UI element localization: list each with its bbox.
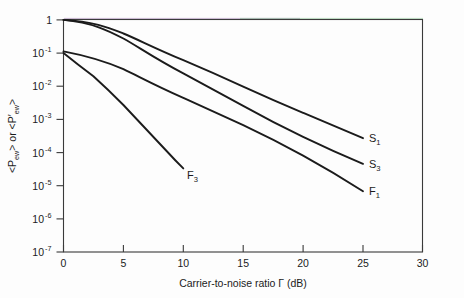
curve-label-F1-sub: 1 [376,191,380,200]
x-tick-label: 25 [357,257,369,269]
y-tick-label: 10 [32,113,44,125]
svg-text:S3: S3 [369,158,381,173]
y-axis-title: <Pew> or <P′ew> [6,99,21,173]
y-tick-label: 10 [32,213,44,225]
chart-figure: 0 5 10 15 20 25 30 1 10 -1 10 -2 10 -3 1… [0,0,464,298]
y-axis-ticks [57,20,64,252]
y-tick-labels: 1 10 -1 10 -2 10 -3 10 -4 10 -5 10 -6 10… [32,14,52,258]
y-tick-exponent: -3 [45,111,51,120]
curve-label-S3-sub: 3 [376,164,380,173]
x-axis-ticks [64,245,423,252]
y-tick-label: 10 [32,47,44,59]
semilog-plot-canvas: 0 5 10 15 20 25 30 1 10 -1 10 -2 10 -3 1… [0,0,464,298]
y-axis-title-part3: > [6,99,18,105]
curve-label-F1: F1 [369,185,380,200]
curve-label-S3-base: S [369,158,376,170]
curve-label-S3: S3 [369,158,381,173]
y-tick-exponent: -4 [45,145,51,154]
curve-label-F3-sub: 3 [194,175,198,184]
x-axis-title: Carrier-to-noise ratio Γ (dB) [179,277,307,289]
y-tick-exponent: -5 [45,178,51,187]
y-tick-exponent: -7 [45,244,51,253]
y-tick-exponent: -6 [45,211,51,220]
y-tick-exponent: -1 [45,45,51,54]
y-axis-title-part1: <P [6,160,18,173]
y-tick-label: 1 [46,14,52,26]
svg-text:<Pew> or <P′ew>: <Pew> or <P′ew> [6,99,21,173]
curve-label-S1: S1 [369,132,381,147]
x-tick-label: 5 [120,257,126,269]
x-tick-label: 0 [61,257,67,269]
x-tick-label: 20 [297,257,309,269]
y-tick-exponent: -2 [45,78,51,87]
svg-text:S1: S1 [369,132,381,147]
y-tick-label: 10 [32,80,44,92]
svg-text:F1: F1 [369,185,380,200]
svg-text:F3: F3 [187,169,198,184]
curve-label-S1-base: S [369,132,376,144]
y-tick-label: 10 [32,147,44,159]
x-tick-labels: 0 5 10 15 20 25 30 [61,257,429,269]
y-axis-title-part2: > or <P′ [6,114,18,150]
x-tick-label: 15 [237,257,249,269]
y-tick-label: 10 [32,180,44,192]
curve-S1 [64,20,364,138]
x-tick-label: 10 [177,257,189,269]
y-tick-label: 10 [32,246,44,258]
x-tick-label: 30 [417,257,429,269]
curve-S3 [64,20,364,164]
curve-label-F3: F3 [187,169,198,184]
curve-label-S1-sub: 1 [376,138,380,147]
